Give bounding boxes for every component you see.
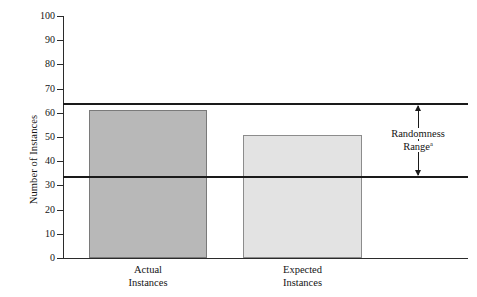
y-axis-tick-label: 90 [21, 35, 55, 45]
x-axis-category-label-line: Instances [69, 276, 227, 289]
x-axis-category-label-line: Instances [223, 276, 382, 289]
y-axis-tick-label: 100 [21, 11, 55, 21]
y-axis-line [63, 16, 64, 259]
y-axis-tick [57, 40, 63, 41]
bar-expected-instances [243, 135, 362, 258]
x-axis-line [63, 258, 468, 259]
y-axis-tick-label: 80 [21, 59, 55, 69]
y-axis-tick [57, 113, 63, 114]
bar-actual-instances [89, 110, 207, 258]
y-axis-tick-label: 0 [21, 253, 55, 263]
y-axis-tick [57, 64, 63, 65]
y-axis-tick [57, 137, 63, 138]
y-axis-tick-label: 50 [21, 132, 55, 142]
y-axis-tick [57, 89, 63, 90]
y-axis-tick [57, 161, 63, 162]
y-axis-tick [57, 210, 63, 211]
randomness-range-line1: Randomness [391, 128, 445, 139]
randomness-range-footnote-marker: a [430, 139, 433, 146]
x-axis-category-label-line: Actual [69, 263, 227, 276]
x-axis-category-label-line: Expected [223, 263, 382, 276]
randomness-range-arrow-head-up-icon [415, 105, 421, 111]
randomness-upper-line [63, 103, 468, 105]
y-axis-tick [57, 258, 63, 259]
y-axis-tick [57, 185, 63, 186]
randomness-range-line2: Range [403, 141, 430, 152]
y-axis-tick-label: 70 [21, 84, 55, 94]
y-axis-tick-label: 10 [21, 229, 55, 239]
y-axis-tick [57, 234, 63, 235]
y-axis-tick-label: 40 [21, 156, 55, 166]
x-axis-category-label: ExpectedInstances [223, 263, 382, 289]
y-axis-tick-label: 30 [21, 180, 55, 190]
randomness-lower-line [63, 176, 468, 178]
randomness-range-arrow-head-down-icon [415, 170, 421, 176]
y-axis-tick-label: 60 [21, 108, 55, 118]
y-axis-tick [57, 16, 63, 17]
y-axis-tick-label: 20 [21, 205, 55, 215]
randomness-range-label: Randomness Rangea [366, 127, 470, 153]
x-axis-category-label: ActualInstances [69, 263, 227, 289]
bar-chart: Number of Instances 10090807060504030201… [0, 0, 477, 297]
